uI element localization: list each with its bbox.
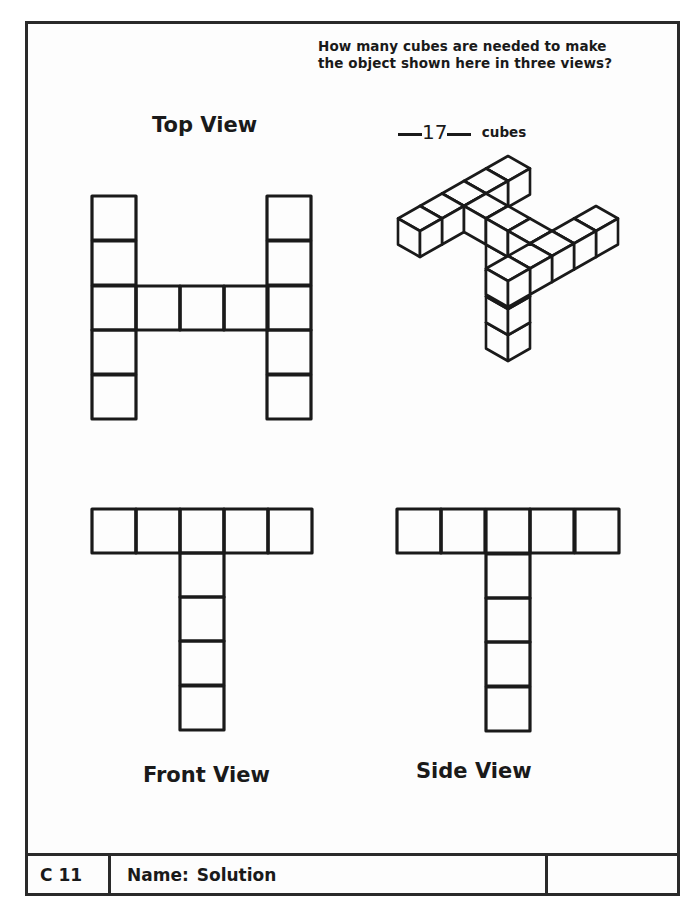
cube-square (267, 286, 311, 330)
cube-square (180, 597, 224, 641)
cube-square (180, 286, 224, 330)
cube-square (486, 554, 530, 598)
cube-square (267, 375, 311, 419)
card-code: C 11 (28, 856, 111, 893)
cube-square (92, 241, 136, 285)
name-label: Name: (127, 865, 189, 885)
cube-square (441, 509, 485, 553)
cube-square (92, 196, 136, 240)
cube-square (180, 686, 224, 730)
top-view-drawing (92, 196, 311, 419)
footer-empty-cell (548, 856, 677, 893)
cube-square (224, 286, 268, 330)
drawings (0, 0, 698, 912)
side-view-drawing (397, 509, 619, 731)
cube-square (486, 687, 530, 731)
name-field: Name: Solution (111, 856, 548, 893)
cube-square (267, 241, 311, 285)
cube-square (575, 509, 619, 553)
cube-square (224, 509, 268, 553)
cube-square (267, 330, 311, 374)
cube-square (486, 509, 530, 553)
cube-square (180, 509, 224, 553)
cube-square (180, 641, 224, 685)
cube-square (92, 509, 136, 553)
cube-square (486, 598, 530, 642)
cube-square (397, 509, 441, 553)
isometric-object-drawing (398, 156, 618, 361)
cube-square (180, 553, 224, 597)
name-value: Solution (197, 865, 277, 885)
cube-square (92, 286, 136, 330)
cube-square (267, 196, 311, 240)
cube-square (486, 642, 530, 686)
cube-square (136, 509, 180, 553)
cube-square (530, 509, 574, 553)
front-view-drawing (92, 509, 312, 730)
cube-square (136, 286, 180, 330)
footer-bar: C 11 Name: Solution (25, 853, 680, 896)
cube-square (92, 330, 136, 374)
cube-square (92, 375, 136, 419)
cube-square (268, 509, 312, 553)
